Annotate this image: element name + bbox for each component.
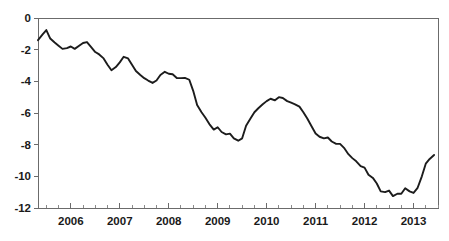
plot-border xyxy=(38,18,438,208)
x-tick-label: 2009 xyxy=(205,215,231,227)
y-tick-label: -8 xyxy=(21,139,32,151)
y-axis-tick-labels: 0-2-4-6-8-10-12 xyxy=(14,12,31,214)
x-tick-label: 2007 xyxy=(107,215,133,227)
y-tick-label: -10 xyxy=(14,170,31,182)
y-tick-label: 0 xyxy=(25,12,31,24)
x-tick-label: 2008 xyxy=(156,215,182,227)
x-tick-label: 2011 xyxy=(303,215,329,227)
x-tick-label: 2010 xyxy=(254,215,280,227)
y-axis-ticks xyxy=(34,18,38,208)
y-tick-label: -6 xyxy=(21,107,31,119)
y-tick-label: -12 xyxy=(14,202,31,214)
y-tick-label: -2 xyxy=(21,44,31,56)
plot-frame xyxy=(38,18,438,208)
line-chart: 0-2-4-6-8-10-12 200620072008200920102011… xyxy=(0,0,449,241)
x-axis-tick-labels: 20062007200820092010201120122013 xyxy=(58,215,426,227)
y-tick-label: -4 xyxy=(21,75,32,87)
data-series-group xyxy=(38,30,434,196)
series-line-1 xyxy=(38,30,434,196)
x-tick-label: 2006 xyxy=(58,215,84,227)
x-tick-label: 2013 xyxy=(401,215,427,227)
x-tick-label: 2012 xyxy=(352,215,378,227)
chart-container: 0-2-4-6-8-10-12 200620072008200920102011… xyxy=(0,0,449,241)
